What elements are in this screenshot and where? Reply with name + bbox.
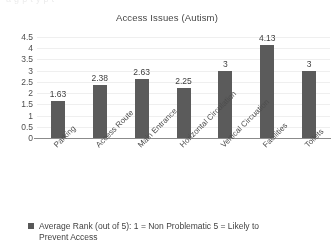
y-axis-tick-label: 2 bbox=[0, 89, 33, 97]
y-axis-tick-label: 0.5 bbox=[0, 123, 33, 131]
legend-label-line2: Prevent Access bbox=[39, 232, 318, 243]
y-axis-tick-label: 1.5 bbox=[0, 100, 33, 108]
bar-value-label: 1.63 bbox=[38, 90, 78, 99]
y-axis-tick-label: 1 bbox=[0, 112, 33, 120]
y-axis-tick-label: 3 bbox=[0, 67, 33, 75]
bar-value-label: 2.38 bbox=[80, 74, 120, 83]
legend-color-swatch bbox=[28, 223, 34, 229]
chart-legend: Average Rank (out of 5): 1 = Non Problem… bbox=[28, 221, 318, 243]
bar-value-label: 2.63 bbox=[122, 68, 162, 77]
y-axis-tick-label: 4.5 bbox=[0, 33, 33, 41]
bar-value-label: 3 bbox=[205, 60, 245, 69]
y-axis-tick-label: 2.5 bbox=[0, 78, 33, 86]
bar-value-label: 2.25 bbox=[164, 77, 204, 86]
bar-value-label: 3 bbox=[289, 60, 329, 69]
y-axis-tick-label: 0 bbox=[0, 134, 33, 142]
legend-label-line1: Average Rank (out of 5): 1 = Non Problem… bbox=[39, 221, 318, 232]
bar-chart: a g p t y p t Access Issues (Autism) 00.… bbox=[0, 0, 334, 247]
y-axis-tick-label: 3.5 bbox=[0, 55, 33, 63]
bar-value-label: 4.13 bbox=[247, 34, 287, 43]
y-axis-tick-label: 4 bbox=[0, 44, 33, 52]
